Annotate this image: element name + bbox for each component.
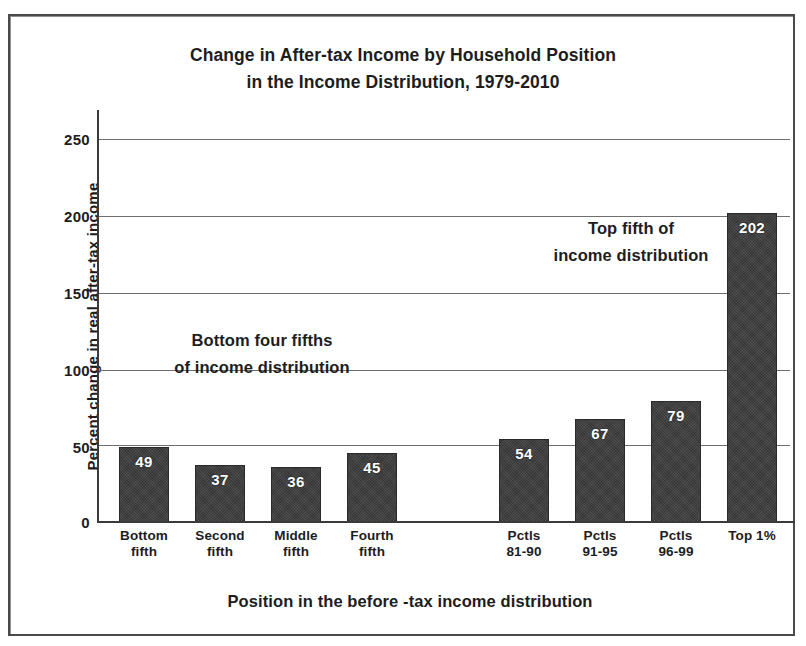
bar-slot-pctls-91-95: 67	[562, 110, 638, 522]
y-tick-label-0: 0	[20, 514, 90, 531]
x-tick-label-pctls-81-90-line-1: Pctls	[508, 528, 541, 543]
bar-bottom-fifth[interactable]: 49	[119, 447, 169, 522]
x-axis-line	[97, 521, 795, 523]
x-tick-label-bottom-fifth-line-2: fifth	[106, 544, 182, 560]
x-tick-label-pctls-96-99: Pctls 96-99	[638, 528, 714, 560]
bar-slot-pctls-81-90: 54	[486, 110, 562, 522]
bar-slot-empty	[410, 110, 486, 522]
bar-value-second-fifth: 37	[196, 471, 244, 488]
annotation-top-line-2: income distribution	[486, 242, 776, 269]
bar-pctls-96-99[interactable]: 79	[651, 401, 701, 522]
chart-title-line-1: Change in After-tax Income by Household …	[190, 45, 616, 65]
x-tick-label-pctls-96-99-line-2: 96-99	[638, 544, 714, 560]
bar-value-pctls-81-90: 54	[500, 445, 548, 462]
y-tick-label-50: 50	[20, 439, 90, 456]
y-axis-tick-labels: 250 200 150 100 50 0	[12, 0, 90, 646]
x-tick-label-fourth-fifth: Fourth fifth	[334, 528, 410, 560]
annotation-top-line-1: Top fifth of	[588, 219, 674, 237]
y-tick-label-100: 100	[20, 362, 90, 379]
x-tick-label-pctls-91-95-line-2: 91-95	[562, 544, 638, 560]
x-tick-label-pctls-81-90-line-2: 81-90	[486, 544, 562, 560]
bar-value-bottom-fifth: 49	[120, 453, 168, 470]
bar-value-fourth-fifth: 45	[348, 459, 396, 476]
x-tick-label-pctls-96-99-line-1: Pctls	[660, 528, 693, 543]
bar-slot-fourth-fifth: 45	[334, 110, 410, 522]
bar-second-fifth[interactable]: 37	[195, 465, 245, 522]
x-tick-label-bottom-fifth: Bottom fifth	[106, 528, 182, 560]
x-tick-label-top-1-percent-line-1: Top 1%	[728, 528, 776, 543]
y-tick-label-150: 150	[20, 285, 90, 302]
x-tick-label-pctls-91-95-line-1: Pctls	[584, 528, 617, 543]
bar-pctls-91-95[interactable]: 67	[575, 419, 625, 522]
x-tick-label-second-fifth-line-2: fifth	[182, 544, 258, 560]
x-tick-label-second-fifth: Second fifth	[182, 528, 258, 560]
bar-slot-second-fifth: 37	[182, 110, 258, 522]
bar-fourth-fifth[interactable]: 45	[347, 453, 397, 522]
y-axis-line	[97, 110, 99, 523]
chart-title-line-2: in the Income Distribution, 1979-2010	[0, 69, 806, 96]
x-tick-label-second-fifth-line-1: Second	[195, 528, 244, 543]
x-tick-label-pctls-81-90: Pctls 81-90	[486, 528, 562, 560]
y-tick-label-250: 250	[20, 131, 90, 148]
chart-figure: Change in After-tax Income by Household …	[0, 0, 806, 646]
bar-slot-middle-fifth: 36	[258, 110, 334, 522]
bar-pctls-81-90[interactable]: 54	[499, 439, 549, 522]
x-tick-label-middle-fifth: Middle fifth	[258, 528, 334, 560]
x-tick-label-bottom-fifth-line-1: Bottom	[120, 528, 168, 543]
bar-value-middle-fifth: 36	[272, 473, 320, 490]
annotation-top-fifth: Top fifth of income distribution	[486, 215, 776, 269]
x-tick-label-middle-fifth-line-1: Middle	[274, 528, 317, 543]
plot-area: 49 37 36 45 54 67	[97, 110, 790, 522]
annotation-bottom-line-1: Bottom four fifths	[191, 331, 332, 349]
x-tick-label-fourth-fifth-line-2: fifth	[334, 544, 410, 560]
annotation-bottom-line-2: of income distribution	[112, 354, 412, 381]
bar-slot-top-1-percent: 202	[714, 110, 790, 522]
bar-slot-bottom-fifth: 49	[106, 110, 182, 522]
y-tick-label-200: 200	[20, 208, 90, 225]
bar-slot-pctls-96-99: 79	[638, 110, 714, 522]
annotation-bottom-four-fifths: Bottom four fifths of income distributio…	[112, 327, 412, 381]
x-tick-label-top-1-percent: Top 1%	[714, 528, 790, 544]
x-tick-label-pctls-91-95: Pctls 91-95	[562, 528, 638, 560]
bar-middle-fifth[interactable]: 36	[271, 467, 321, 522]
chart-title: Change in After-tax Income by Household …	[0, 42, 806, 96]
x-axis-title: Position in the before -tax income distr…	[60, 592, 760, 611]
bar-value-pctls-96-99: 79	[652, 407, 700, 424]
x-tick-label-middle-fifth-line-2: fifth	[258, 544, 334, 560]
bar-value-pctls-91-95: 67	[576, 425, 624, 442]
x-tick-label-fourth-fifth-line-1: Fourth	[350, 528, 393, 543]
